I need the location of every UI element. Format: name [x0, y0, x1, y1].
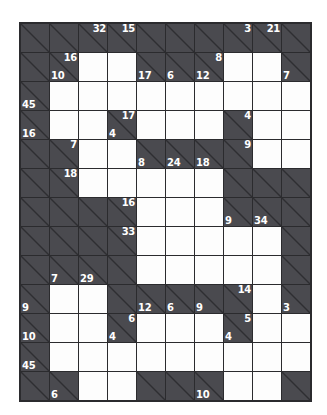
- kakuro-cell-open-r2c4[interactable]: [108, 53, 137, 82]
- kakuro-cell-open-r5c10[interactable]: [282, 140, 312, 169]
- kakuro-cell-open-r8c8[interactable]: [224, 227, 253, 256]
- kakuro-cell-open-r7c6[interactable]: [166, 198, 195, 227]
- kakuro-cell-open-r4c9[interactable]: [253, 111, 282, 140]
- kakuro-cell-open-r10c3[interactable]: [79, 285, 108, 314]
- kakuro-cell-open-r3c7[interactable]: [195, 82, 224, 111]
- kakuro-cell-value: [195, 111, 223, 139]
- kakuro-cell-open-r12c8[interactable]: [224, 343, 253, 372]
- kakuro-cell-open-r12c4[interactable]: [108, 343, 137, 372]
- kakuro-cell-value: [50, 82, 78, 110]
- kakuro-cell-open-r8c6[interactable]: [166, 227, 195, 256]
- kakuro-cell-value: [253, 256, 281, 284]
- kakuro-cell-open-r12c6[interactable]: [166, 343, 195, 372]
- kakuro-cell-clue-r10c7: 9: [195, 285, 224, 314]
- kakuro-cell-open-r2c3[interactable]: [79, 53, 108, 82]
- kakuro-cell-open-r13c4[interactable]: [108, 372, 137, 402]
- kakuro-cell-open-r11c5[interactable]: [137, 314, 166, 343]
- kakuro-cell-open-r8c5[interactable]: [137, 227, 166, 256]
- kakuro-cell-open-r11c10[interactable]: [282, 314, 312, 343]
- kakuro-cell-open-r4c7[interactable]: [195, 111, 224, 140]
- clue-across-value: 4: [109, 128, 116, 140]
- kakuro-cell-open-r13c8[interactable]: [224, 372, 253, 402]
- kakuro-cell-clue-r5c7: 18: [195, 140, 224, 169]
- kakuro-cell-clue-r2c7: 812: [195, 53, 224, 82]
- kakuro-cell-clue-r2c2: 1610: [50, 53, 79, 82]
- kakuro-cell-clue-r10c1: 9: [20, 285, 50, 314]
- kakuro-cell-open-r11c2[interactable]: [50, 314, 79, 343]
- clue-diagonal-icon: [282, 372, 310, 400]
- kakuro-cell-open-r4c3[interactable]: [79, 111, 108, 140]
- kakuro-cell-open-r12c3[interactable]: [79, 343, 108, 372]
- kakuro-cell-open-r4c10[interactable]: [282, 111, 312, 140]
- kakuro-cell-open-r2c9[interactable]: [253, 53, 282, 82]
- kakuro-cell-open-r13c9[interactable]: [253, 372, 282, 402]
- kakuro-cell-open-r5c4[interactable]: [108, 140, 137, 169]
- kakuro-cell-open-r5c3[interactable]: [79, 140, 108, 169]
- clue-diagonal-icon: [50, 24, 78, 52]
- kakuro-cell-value: [108, 169, 136, 197]
- kakuro-cell-open-r8c7[interactable]: [195, 227, 224, 256]
- kakuro-cell-open-r10c9[interactable]: [253, 285, 282, 314]
- clue-diagonal-icon: [21, 256, 49, 284]
- kakuro-cell-open-r6c4[interactable]: [108, 169, 137, 198]
- kakuro-cell-open-r9c7[interactable]: [195, 256, 224, 285]
- kakuro-cell-value: [195, 227, 223, 255]
- kakuro-cell-open-r9c6[interactable]: [166, 256, 195, 285]
- kakuro-cell-open-r6c5[interactable]: [137, 169, 166, 198]
- kakuro-cell-clue-r11c1: 10: [20, 314, 50, 343]
- kakuro-cell-open-r7c7[interactable]: [195, 198, 224, 227]
- kakuro-cell-block-r6c8: [224, 169, 253, 198]
- kakuro-cell-open-r3c5[interactable]: [137, 82, 166, 111]
- kakuro-cell-open-r11c6[interactable]: [166, 314, 195, 343]
- kakuro-cell-open-r12c10[interactable]: [282, 343, 312, 372]
- clue-across-value: 6: [51, 389, 58, 401]
- kakuro-cell-open-r10c2[interactable]: [50, 285, 79, 314]
- kakuro-cell-open-r3c9[interactable]: [253, 82, 282, 111]
- kakuro-cell-block-r13c10: [282, 372, 312, 402]
- clue-down-value: 4: [244, 111, 251, 123]
- kakuro-cell-open-r7c5[interactable]: [137, 198, 166, 227]
- kakuro-cell-open-r6c3[interactable]: [79, 169, 108, 198]
- kakuro-cell-open-r9c8[interactable]: [224, 256, 253, 285]
- kakuro-cell-open-r5c9[interactable]: [253, 140, 282, 169]
- kakuro-cell-open-r13c3[interactable]: [79, 372, 108, 402]
- kakuro-grid[interactable]: 3215321161017681274516174478241891816934…: [19, 22, 312, 402]
- clue-diagonal-icon: [195, 24, 223, 52]
- kakuro-cell-open-r3c2[interactable]: [50, 82, 79, 111]
- kakuro-cell-value: [166, 82, 194, 110]
- clue-down-value: 5: [244, 314, 251, 326]
- kakuro-cell-open-r12c2[interactable]: [50, 343, 79, 372]
- kakuro-row: 18: [20, 169, 311, 198]
- kakuro-cell-open-r3c10[interactable]: [282, 82, 312, 111]
- kakuro-cell-open-r4c5[interactable]: [137, 111, 166, 140]
- kakuro-cell-open-r9c5[interactable]: [137, 256, 166, 285]
- kakuro-cell-open-r3c3[interactable]: [79, 82, 108, 111]
- kakuro-cell-open-r12c9[interactable]: [253, 343, 282, 372]
- kakuro-cell-open-r12c7[interactable]: [195, 343, 224, 372]
- kakuro-cell-block-r9c1: [20, 256, 50, 285]
- clue-across-value: 45: [22, 99, 35, 111]
- kakuro-cell-value: [282, 343, 310, 371]
- kakuro-cell-open-r11c7[interactable]: [195, 314, 224, 343]
- kakuro-cell-open-r12c5[interactable]: [137, 343, 166, 372]
- kakuro-cell-value: [166, 111, 194, 139]
- kakuro-cell-open-r3c6[interactable]: [166, 82, 195, 111]
- kakuro-cell-open-r2c8[interactable]: [224, 53, 253, 82]
- kakuro-cell-clue-r1c4: 15: [108, 23, 137, 53]
- kakuro-cell-clue-r1c9: 21: [253, 23, 282, 53]
- kakuro-cell-value: [224, 256, 252, 284]
- clue-across-value: 8: [138, 157, 145, 169]
- kakuro-cell-open-r3c4[interactable]: [108, 82, 137, 111]
- kakuro-cell-open-r11c3[interactable]: [79, 314, 108, 343]
- kakuro-cell-open-r11c9[interactable]: [253, 314, 282, 343]
- kakuro-cell-open-r6c7[interactable]: [195, 169, 224, 198]
- kakuro-cell-open-r6c6[interactable]: [166, 169, 195, 198]
- kakuro-cell-open-r3c8[interactable]: [224, 82, 253, 111]
- kakuro-cell-value: [224, 343, 252, 371]
- kakuro-cell-open-r4c6[interactable]: [166, 111, 195, 140]
- kakuro-cell-open-r8c9[interactable]: [253, 227, 282, 256]
- kakuro-row: 16934: [20, 198, 311, 227]
- kakuro-cell-value: [224, 82, 252, 110]
- kakuro-cell-open-r9c9[interactable]: [253, 256, 282, 285]
- kakuro-cell-open-r4c2[interactable]: [50, 111, 79, 140]
